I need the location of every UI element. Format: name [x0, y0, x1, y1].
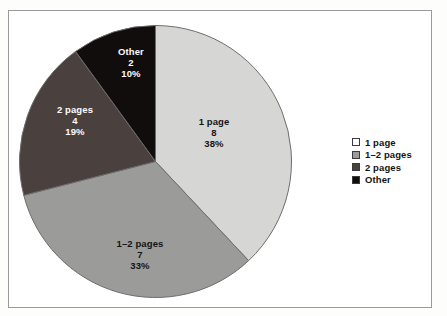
chart-figure: 1 page 8 38% 1–2 pages 7 33% 2 pages 4 1…	[0, 0, 447, 316]
legend-item-1-page[interactable]: 1 page	[352, 136, 432, 149]
legend-item-label: Other	[365, 174, 391, 185]
legend-item-other[interactable]: Other	[352, 174, 432, 187]
chart-legend: 1 page 1–2 pages 2 pages Other	[352, 136, 432, 186]
pie-chart-svg	[18, 24, 293, 299]
legend-item-label: 2 pages	[365, 162, 401, 173]
pie-chart-plot-area: 1 page 8 38% 1–2 pages 7 33% 2 pages 4 1…	[0, 0, 447, 316]
legend-swatch-icon	[352, 176, 360, 184]
legend-swatch-icon	[352, 138, 360, 146]
pie-slice-group	[19, 25, 291, 297]
legend-item-2-pages[interactable]: 2 pages	[352, 161, 432, 174]
legend-item-label: 1–2 pages	[365, 149, 412, 160]
legend-item-1-2-pages[interactable]: 1–2 pages	[352, 149, 432, 162]
legend-item-label: 1 page	[365, 137, 396, 148]
legend-swatch-icon	[352, 163, 360, 171]
legend-swatch-icon	[352, 151, 360, 159]
